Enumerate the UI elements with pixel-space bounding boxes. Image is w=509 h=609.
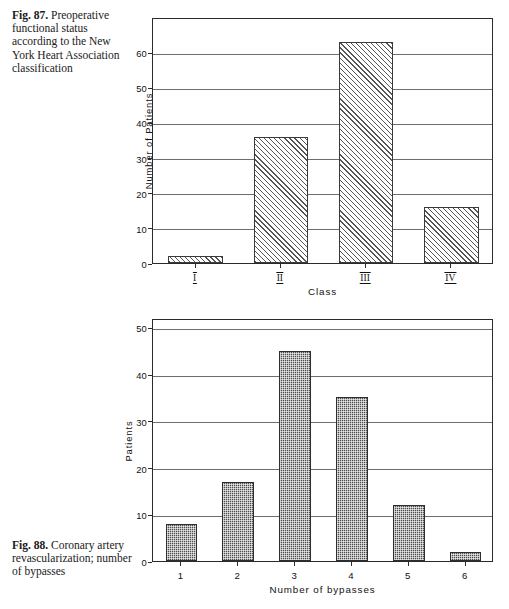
y-tick-mark	[148, 53, 152, 54]
bar	[339, 42, 394, 263]
gridline	[153, 422, 492, 423]
gridline	[153, 469, 492, 470]
bar	[166, 524, 198, 561]
gridline	[153, 54, 492, 55]
y-tick-label: 20	[136, 188, 147, 199]
figure-page: Fig. 87.Preoperative functional status a…	[0, 0, 509, 609]
gridline	[153, 376, 492, 377]
y-tick-mark	[148, 264, 152, 265]
x-tick-mark	[408, 562, 409, 566]
y-tick-mark	[148, 421, 152, 422]
x-tick-label: IV	[445, 272, 456, 284]
x-tick-label: II	[276, 272, 283, 284]
y-tick-label: 30	[136, 153, 147, 164]
bar	[168, 256, 223, 263]
figure-88-y-axis-label: Patients	[123, 420, 134, 461]
y-tick-mark	[148, 88, 152, 89]
bar	[393, 505, 425, 561]
figure-88-number: Fig. 88.	[12, 539, 51, 551]
bar	[450, 552, 482, 561]
bar	[336, 397, 368, 561]
bar	[222, 482, 254, 561]
figure-87-y-axis-label: Number of Patients	[143, 93, 154, 189]
x-tick-mark	[365, 264, 366, 268]
gridline	[153, 329, 492, 330]
y-tick-mark	[148, 158, 152, 159]
x-tick-mark	[465, 562, 466, 566]
figure-87-x-axis-label: Class	[308, 286, 337, 297]
y-tick-label: 50	[136, 323, 147, 334]
y-tick-mark	[148, 468, 152, 469]
x-tick-mark	[280, 264, 281, 268]
y-tick-label: 50	[136, 83, 147, 94]
bar	[424, 207, 479, 263]
figure-87-caption: Fig. 87.Preoperative functional status a…	[12, 9, 132, 75]
y-tick-label: 30	[136, 416, 147, 427]
y-tick-label: 20	[136, 463, 147, 474]
x-tick-label: 5	[405, 570, 410, 581]
bar	[254, 137, 309, 264]
y-tick-label: 40	[136, 118, 147, 129]
y-tick-mark	[148, 123, 152, 124]
gridline	[153, 516, 492, 517]
x-tick-label: 4	[348, 570, 353, 581]
y-tick-mark	[148, 193, 152, 194]
y-tick-mark	[148, 375, 152, 376]
figure-88-caption: Fig. 88.Coronary artery revascularizatio…	[12, 539, 132, 579]
roman-numeral: III	[360, 272, 371, 284]
roman-numeral: II	[276, 272, 283, 284]
y-tick-label: 60	[136, 48, 147, 59]
roman-numeral: I	[193, 272, 197, 284]
y-tick-mark	[148, 562, 152, 563]
x-tick-mark	[450, 264, 451, 268]
y-tick-mark	[148, 515, 152, 516]
y-tick-label: 40	[136, 370, 147, 381]
x-tick-mark	[294, 562, 295, 566]
x-tick-label: 2	[235, 570, 240, 581]
figure-87-plot-area	[152, 18, 493, 264]
x-tick-label: I	[193, 272, 197, 284]
roman-numeral: IV	[445, 272, 456, 284]
figure-87-chart: Number of Patients Class 0102030405060II…	[152, 18, 493, 264]
x-tick-label: III	[360, 272, 371, 284]
x-tick-label: 6	[462, 570, 467, 581]
figure-87-number: Fig. 87.	[12, 9, 51, 21]
figure-88-x-axis-label: Number of bypasses	[269, 584, 375, 595]
x-tick-mark	[180, 562, 181, 566]
bar	[279, 351, 311, 561]
gridline	[153, 124, 492, 125]
gridline	[153, 194, 492, 195]
gridline	[153, 89, 492, 90]
x-tick-mark	[237, 562, 238, 566]
y-tick-mark	[148, 328, 152, 329]
gridline	[153, 159, 492, 160]
x-tick-mark	[351, 562, 352, 566]
y-tick-label: 10	[136, 223, 147, 234]
x-tick-label: 1	[178, 570, 183, 581]
y-tick-mark	[148, 228, 152, 229]
y-tick-label: 0	[142, 259, 147, 270]
figure-88-plot-area	[152, 319, 493, 562]
x-tick-mark	[195, 264, 196, 268]
y-tick-label: 10	[136, 510, 147, 521]
x-tick-label: 3	[291, 570, 296, 581]
y-tick-label: 0	[142, 557, 147, 568]
figure-88-chart: Patients Number of bypasses 010203040501…	[152, 319, 493, 562]
